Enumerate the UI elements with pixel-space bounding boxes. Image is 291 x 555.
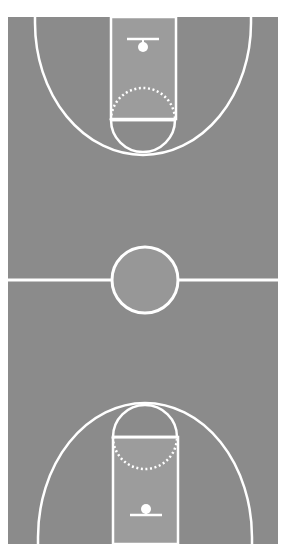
- basketball-court-diagram: [0, 0, 291, 555]
- top-lane-key: [111, 17, 176, 119]
- top-rim: [138, 42, 148, 52]
- center-circle: [112, 247, 178, 313]
- bottom-rim: [141, 504, 151, 514]
- bottom-lane-key: [113, 437, 178, 544]
